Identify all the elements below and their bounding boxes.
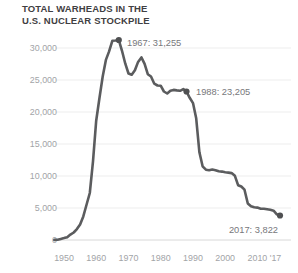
- x-axis-labels: 1950196019701980199020002010'17: [54, 253, 281, 263]
- data-point-marker-1988: [183, 88, 189, 94]
- y-axis-labels: 05,00010,00015,00020,00025,00030,000: [30, 43, 57, 245]
- data-point-markers: [116, 37, 283, 219]
- y-tick-label: 15,000: [30, 139, 57, 149]
- trend-line: [54, 40, 280, 240]
- y-tick-label: 10,000: [30, 171, 57, 181]
- y-tick-label: 20,000: [30, 107, 57, 117]
- gridlines: [55, 48, 291, 240]
- y-tick-label: 5,000: [35, 203, 57, 213]
- x-tick-label: 1960: [86, 253, 106, 263]
- x-tick-label: '17: [270, 253, 282, 263]
- x-tick-label: 1990: [183, 253, 203, 263]
- x-tick-label: 1970: [119, 253, 139, 263]
- x-tick-label: 2000: [215, 253, 235, 263]
- nuclear-stockpile-chart: TOTAL WARHEADS IN THE U.S. NUCLEAR STOCK…: [0, 0, 298, 273]
- x-tick-label: 2010: [248, 253, 268, 263]
- data-point-marker-1967: [116, 37, 122, 43]
- y-tick-label: 30,000: [30, 43, 57, 53]
- x-tick-label: 1950: [54, 253, 74, 263]
- x-tick-label: 1980: [151, 253, 171, 263]
- annotation-1988: 1988: 23,205: [196, 87, 250, 97]
- annotation-1967: 1967: 31,255: [127, 38, 181, 48]
- annotation-2017: 2017: 3,822: [229, 225, 278, 235]
- data-point-marker-2017: [277, 212, 283, 218]
- plot-area: 05,00010,00015,00020,00025,00030,000 195…: [0, 0, 298, 273]
- y-tick-label: 25,000: [30, 75, 57, 85]
